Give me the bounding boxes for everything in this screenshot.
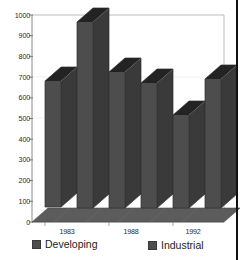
legend-swatch-icon <box>148 241 157 250</box>
bar-1983-developing <box>45 67 77 207</box>
y-tick-label-0: 0 <box>6 219 30 226</box>
x-tick-label-1992: 1992 <box>174 227 212 236</box>
legend-label-developing: Developing <box>45 238 98 250</box>
page-edge-margin <box>243 0 245 260</box>
legend-item-developing: Developing <box>32 238 98 250</box>
legend-label-industrial: Industrial <box>161 239 204 251</box>
y-tick-label-200: 200 <box>6 177 30 184</box>
bar-1983-industrial <box>77 8 109 208</box>
x-tick-label-1983: 1983 <box>48 227 86 236</box>
y-tick-label-300: 300 <box>6 156 30 163</box>
y-tick-label-700: 700 <box>6 74 30 81</box>
page-edge-border <box>236 0 238 260</box>
bar-1988-industrial <box>141 69 173 208</box>
chart-legend: Developing Industrial <box>0 237 236 259</box>
legend-swatch-icon <box>32 240 41 249</box>
y-tick-label-500: 500 <box>6 115 30 122</box>
y-tick-label-800: 800 <box>6 53 30 60</box>
x-tick-label-1988: 1988 <box>112 227 150 236</box>
y-tick-label-400: 400 <box>6 136 30 143</box>
y-tick-label-100: 100 <box>6 198 30 205</box>
chart-floor <box>32 208 240 222</box>
y-axis-labels: 1000 900 800 700 600 500 400 300 200 100… <box>3 0 30 260</box>
chart-canvas <box>0 0 245 260</box>
x-tick-marks <box>45 222 173 226</box>
y-tick-label-1000: 1000 <box>6 12 30 19</box>
y-tick-label-600: 600 <box>6 94 30 101</box>
y-tick-label-900: 900 <box>6 32 30 39</box>
bar-chart: 1000 900 800 700 600 500 400 300 200 100… <box>0 0 245 260</box>
bar-1992-developing <box>173 101 205 208</box>
legend-item-industrial: Industrial <box>148 239 204 251</box>
bar-1992-industrial <box>205 65 237 208</box>
bar-1988-developing <box>109 58 141 208</box>
